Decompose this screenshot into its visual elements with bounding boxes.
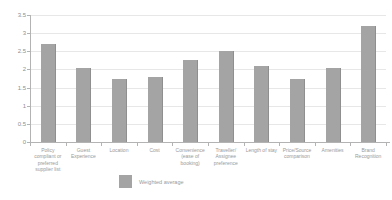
- x-axis-category-label: Traveller/ Assignee preference: [208, 147, 244, 166]
- bar: [112, 79, 127, 143]
- x-axis-tick: [30, 143, 31, 146]
- x-axis-tick: [137, 143, 138, 146]
- y-axis-tick-label: 2.5: [6, 48, 26, 54]
- x-axis-tick: [244, 143, 245, 146]
- x-axis-category-label: Guest Experience: [66, 147, 102, 160]
- bar-chart: Weighted average 00.511.522.533.5Policy …: [0, 0, 392, 200]
- x-axis-category-label: Location: [101, 147, 137, 153]
- y-axis-tick-label: 1.5: [6, 85, 26, 91]
- y-axis-tick-label: 2: [6, 66, 26, 72]
- x-axis-tick: [208, 143, 209, 146]
- x-axis-line: [30, 142, 390, 143]
- y-axis-tick-label: 0.5: [6, 121, 26, 127]
- bar: [148, 77, 163, 142]
- legend: Weighted average: [119, 175, 184, 188]
- y-axis-line: [30, 15, 31, 142]
- x-axis-tick: [350, 143, 351, 146]
- x-axis-category-label: Cost: [137, 147, 173, 153]
- x-axis-category-label: Price/Source comparison: [279, 147, 315, 160]
- gridline: [30, 51, 386, 52]
- x-axis-category-label: Brand Recognition: [350, 147, 386, 160]
- x-axis-tick: [279, 143, 280, 146]
- x-axis-category-label: Policy compliant or preferred supplier l…: [30, 147, 66, 172]
- gridline: [30, 33, 386, 34]
- y-axis-tick-label: 0: [6, 139, 26, 145]
- x-axis-tick: [315, 143, 316, 146]
- y-axis-tick-label: 3.5: [6, 12, 26, 18]
- bar: [290, 79, 305, 143]
- legend-label: Weighted average: [139, 179, 184, 185]
- x-axis-tick: [386, 143, 387, 146]
- bar: [361, 26, 376, 142]
- bar: [326, 68, 341, 142]
- bar: [254, 66, 269, 142]
- bar: [219, 51, 234, 142]
- x-axis-category-label: Convenience (ease of booking): [172, 147, 208, 166]
- x-axis-category-label: Length of stay: [244, 147, 280, 153]
- y-axis-tick-label: 1: [6, 103, 26, 109]
- legend-swatch-icon: [119, 175, 132, 188]
- bar: [76, 68, 91, 142]
- x-axis-tick: [66, 143, 67, 146]
- bar: [41, 44, 56, 142]
- x-axis-tick: [101, 143, 102, 146]
- x-axis-category-label: Amenities: [315, 147, 351, 153]
- bar: [183, 60, 198, 142]
- gridline: [30, 15, 386, 16]
- x-axis-tick: [172, 143, 173, 146]
- y-axis-tick-label: 3: [6, 30, 26, 36]
